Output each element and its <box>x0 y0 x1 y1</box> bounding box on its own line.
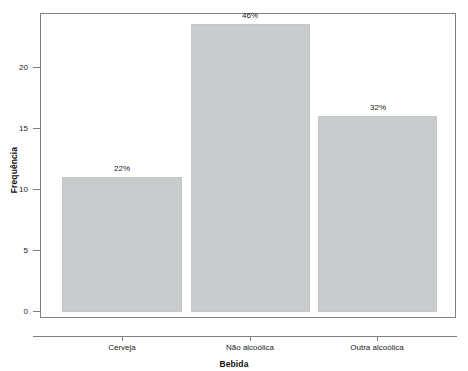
x-tick-mark <box>122 336 123 341</box>
y-tick-mark <box>33 67 40 68</box>
y-tick-label: 5 <box>0 247 28 255</box>
y-tick-label: 20 <box>0 64 28 72</box>
bar-cerveja <box>62 177 182 312</box>
y-tick-label: 0 <box>0 308 28 316</box>
x-axis-title: Bebida <box>0 359 468 369</box>
y-tick-mark <box>33 189 40 190</box>
bar-value-label: 22% <box>52 165 192 173</box>
x-axis-line <box>33 336 457 337</box>
bar-value-label: 32% <box>308 104 448 112</box>
bar-outra-alcoolica <box>318 116 437 312</box>
y-tick-mark <box>33 128 40 129</box>
y-tick-mark <box>33 250 40 251</box>
bar-value-label: 46% <box>180 12 320 20</box>
y-axis-line <box>40 13 41 318</box>
y-axis-title: Frequência <box>9 130 19 210</box>
x-tick-label-nao-alcoolica: Não alcoólica <box>180 344 320 352</box>
x-tick-label-cerveja: Cerveja <box>52 344 192 352</box>
bar-chart-figure: 0 5 10 15 20 Frequência 22% 46% 32% Cerv… <box>0 0 468 371</box>
bar-nao-alcoolica <box>191 24 310 312</box>
x-tick-label-outra-alcoolica: Outra alcoólica <box>307 344 447 352</box>
y-tick-mark <box>33 311 40 312</box>
x-tick-mark <box>377 336 378 341</box>
x-tick-mark <box>250 336 251 341</box>
